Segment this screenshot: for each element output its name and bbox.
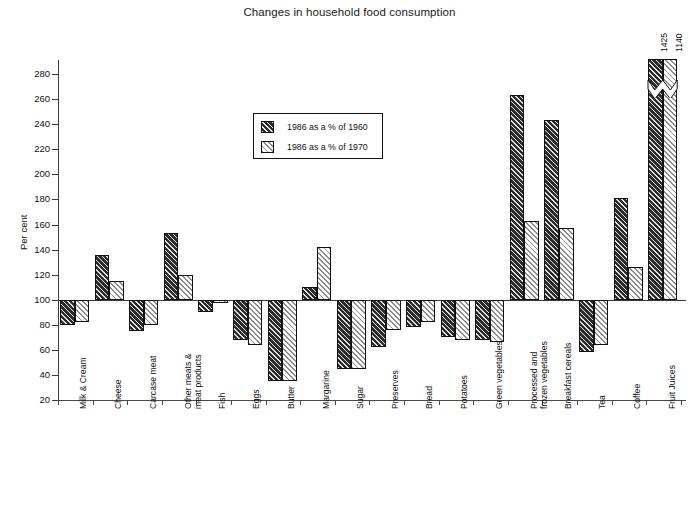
x-axis-label-3: Other meats &meat products: [184, 354, 203, 409]
x-tick: [646, 400, 647, 405]
x-tick: [612, 400, 613, 405]
bar-value-annotation: 1140: [674, 34, 684, 52]
bar-7-series-1970: [317, 247, 332, 300]
bar-1-series-1970: [109, 281, 124, 300]
bar-8-series-1960: [337, 300, 352, 369]
legend-label-1970: 1986 as a % of 1970: [287, 142, 368, 152]
x-tick: [162, 400, 163, 405]
y-tick: [52, 250, 59, 251]
bar-11-series-1960: [441, 300, 456, 338]
x-axis-label-1: Cheese: [114, 379, 124, 409]
bar-14-series-1960: [544, 120, 559, 299]
y-tick-label: 40: [8, 370, 50, 379]
x-tick: [93, 400, 94, 405]
y-tick-label: 160: [8, 220, 50, 229]
chart-canvas: Changes in household food consumption Pe…: [0, 0, 699, 516]
y-tick-label: 80: [8, 320, 50, 329]
y-tick: [52, 225, 59, 226]
y-tick-label: 100: [8, 295, 50, 304]
bar-1-series-1960: [95, 255, 110, 300]
y-tick: [52, 375, 59, 376]
x-axis-label-6: Butter: [287, 386, 297, 409]
y-tick-label: 200: [8, 169, 50, 178]
legend-swatch-dark-icon: [261, 121, 274, 133]
bar-5-series-1960: [233, 300, 248, 340]
y-tick: [52, 300, 59, 301]
x-tick: [58, 400, 59, 405]
x-axis-label-4: Fish: [218, 393, 228, 409]
bar-15-series-1970: [594, 300, 609, 345]
y-tick: [52, 174, 59, 175]
x-axis-label-11: Potatoes: [460, 375, 470, 409]
x-tick: [300, 400, 301, 405]
bar-13-series-1970: [524, 221, 539, 300]
y-tick-label: 280: [8, 69, 50, 78]
y-tick-label: 240: [8, 119, 50, 128]
y-tick: [52, 350, 59, 351]
y-tick: [52, 74, 59, 75]
y-tick-label: 120: [8, 270, 50, 279]
y-tick: [52, 275, 59, 276]
bar-16-series-1970: [628, 267, 643, 300]
x-tick: [404, 400, 405, 405]
x-axis-label-0: Milk & Cream: [79, 357, 89, 409]
bar-9-series-1970: [386, 300, 401, 330]
bar-15-series-1960: [579, 300, 594, 353]
y-tick: [52, 124, 59, 125]
bar-14-series-1970: [559, 228, 574, 300]
bar-0-series-1970: [75, 300, 90, 323]
x-axis-label-14: Breakfast cereals: [564, 343, 574, 409]
bar-0-series-1960: [60, 300, 75, 325]
x-tick: [473, 400, 474, 405]
x-axis-label-2: Carcase meat: [149, 356, 159, 410]
y-tick-label: 140: [8, 245, 50, 254]
bar-12-series-1960: [475, 300, 490, 340]
bar-10-series-1960: [406, 300, 421, 328]
bar-6-series-1960: [268, 300, 283, 382]
legend-swatch-light-icon: [261, 141, 274, 153]
axis-break-icon: [647, 78, 678, 98]
x-tick: [369, 400, 370, 405]
bar-6-series-1970: [282, 300, 297, 382]
y-tick-label: 260: [8, 94, 50, 103]
bar-11-series-1970: [455, 300, 470, 340]
x-axis-label-15: Tea: [598, 395, 608, 409]
x-tick: [127, 400, 128, 405]
x-tick: [681, 400, 682, 405]
legend-label-1960: 1986 as a % of 1960: [287, 122, 368, 132]
x-tick: [335, 400, 336, 405]
x-axis-label-17: Fruit Juices: [668, 365, 678, 409]
x-axis-label-12: Green vegetables: [495, 341, 505, 409]
y-tick-label: 60: [8, 345, 50, 354]
bar-9-series-1960: [371, 300, 386, 348]
x-axis-label-16: Coffee: [633, 384, 643, 409]
bar-16-series-1960: [614, 198, 629, 300]
chart-title: Changes in household food consumption: [0, 6, 699, 18]
y-tick: [52, 99, 59, 100]
bar-2-series-1970: [144, 300, 159, 325]
x-axis-label-13: Processed andfrozen vegetables: [530, 341, 549, 409]
y-tick: [52, 325, 59, 326]
bar-8-series-1970: [351, 300, 366, 369]
x-tick: [577, 400, 578, 405]
bar-7-series-1960: [302, 287, 317, 300]
bar-3-series-1960: [164, 233, 179, 300]
x-tick: [508, 400, 509, 405]
bar-2-series-1960: [129, 300, 144, 331]
y-tick: [52, 149, 59, 150]
y-tick-label: 20: [8, 395, 50, 404]
y-tick-label: 180: [8, 194, 50, 203]
bar-4-series-1960: [198, 300, 213, 313]
x-tick: [439, 400, 440, 405]
y-tick-label: 220: [8, 144, 50, 153]
legend: 1986 as a % of 1960 1986 as a % of 1970: [253, 113, 383, 159]
y-tick: [52, 199, 59, 200]
bar-13-series-1960: [510, 95, 525, 299]
bar-10-series-1970: [421, 300, 436, 323]
x-tick: [266, 400, 267, 405]
x-axis-label-5: Eggs: [252, 389, 262, 409]
x-axis-label-8: Sugar: [356, 386, 366, 409]
x-axis-label-9: Preserves: [391, 370, 401, 409]
x-axis-label-10: Bread: [425, 386, 435, 409]
bar-12-series-1970: [490, 300, 505, 343]
